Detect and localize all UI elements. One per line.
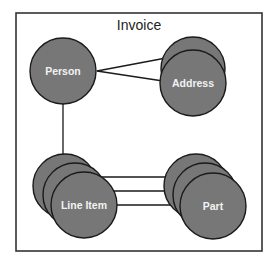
node-address[interactable]: Address bbox=[160, 37, 226, 116]
diagram-title: Invoice bbox=[117, 17, 162, 33]
invoice-diagram: Invoice Person Address Line Item Part bbox=[0, 0, 275, 268]
node-line-item-label: Line Item bbox=[61, 199, 107, 211]
node-person-label: Person bbox=[45, 65, 81, 77]
node-person[interactable]: Person bbox=[30, 38, 96, 104]
node-address-label: Address bbox=[172, 77, 214, 89]
node-part-label: Part bbox=[203, 200, 224, 212]
